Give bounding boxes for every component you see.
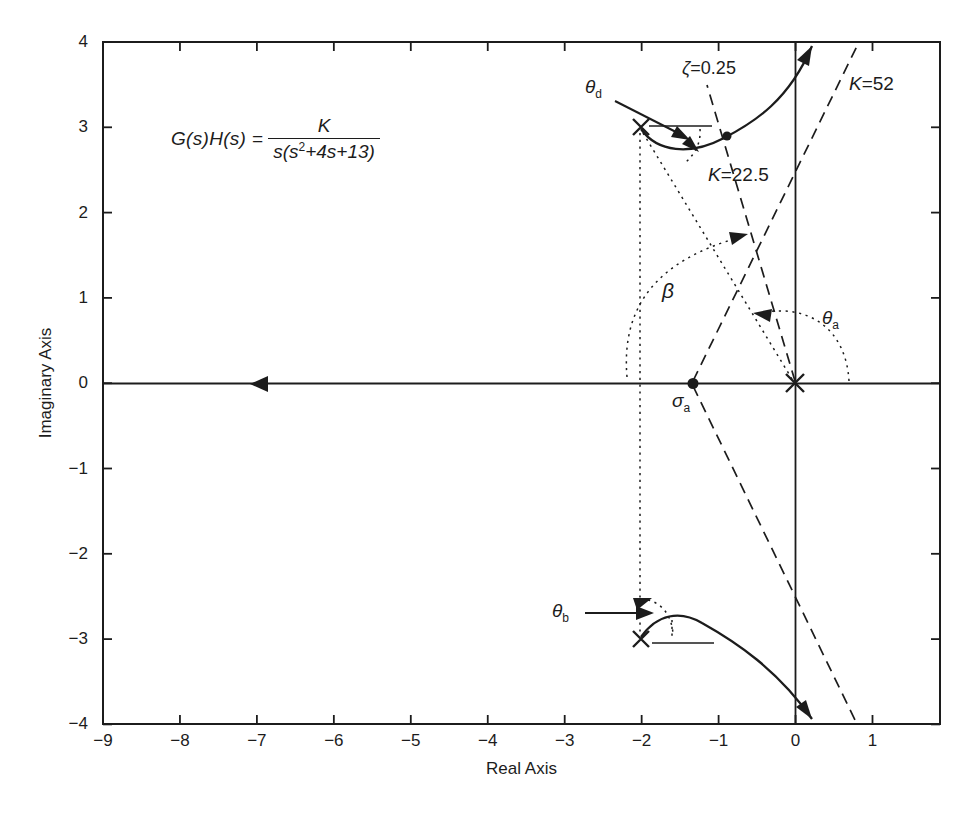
reference-lines [585,101,714,643]
theta-d-pointer-arrow [671,126,690,140]
y-tick-label: 4 [42,31,88,53]
root-locus-plot [0,0,972,819]
y-tick-label: 2 [42,202,88,224]
x-tick-label: −2 [620,731,664,751]
y-tick-label: 3 [42,116,88,138]
x-tick-label: 1 [851,731,895,751]
root-locus-figure: G(s)H(s) = K s(s2+4s+13) ζ=0.25 K=52 K=2… [0,0,972,819]
sigma-a-dot [688,378,699,389]
y-tick-label: −2 [42,543,88,565]
equation-fraction: K s(s2+4s+13) [268,115,380,163]
x-axis-label: Real Axis [103,759,940,779]
theta-d-label: θd [585,76,602,101]
real-axis-arrow [250,376,268,392]
beta-label: β [662,279,674,303]
theta-d-pointer-line [615,101,676,132]
zeta-label: ζ=0.25 [682,58,736,79]
x-tick-label: −1 [697,731,741,751]
y-tick-label: 0 [42,372,88,394]
y-tick-label: 1 [42,287,88,309]
lower-branch-arrow [796,700,812,719]
equation-numerator: K [316,115,333,138]
beta-arc-arrow [729,232,748,245]
x-tick-label: −8 [158,731,202,751]
x-tick-label: −5 [389,731,433,751]
k52-label: K=52 [849,73,894,95]
pole-marker-lower [633,631,649,647]
upper-branch-arrow [797,46,812,66]
k225-label: K=22.5 [708,164,769,186]
theta-b-arc-arrow [633,598,652,610]
sigma-a-label: σa [672,390,690,415]
theta-a-label: θa [822,307,839,332]
asymptote-down-line [693,386,856,722]
pole-marker-upper [633,119,649,135]
x-tick-label: −4 [466,731,510,751]
transfer-function-equation: G(s)H(s) = K s(s2+4s+13) [171,115,380,163]
y-tick-label: −4 [42,713,88,735]
theta-b-label: θb [552,600,569,625]
equation-denominator: s(s2+4s+13) [268,138,380,163]
y-tick-label: −1 [42,458,88,480]
x-tick-label: −3 [543,731,587,751]
x-tick-label: −6 [312,731,356,751]
y-tick-label: −3 [42,628,88,650]
zeta-damping-line [707,85,795,381]
x-tick-label: 0 [774,731,818,751]
beta-angle-arc [626,237,741,377]
equation-lhs: G(s)H(s) = [171,128,263,150]
x-tick-label: −7 [235,731,279,751]
lower-locus-branch [641,616,812,719]
k225-dot [723,132,732,141]
